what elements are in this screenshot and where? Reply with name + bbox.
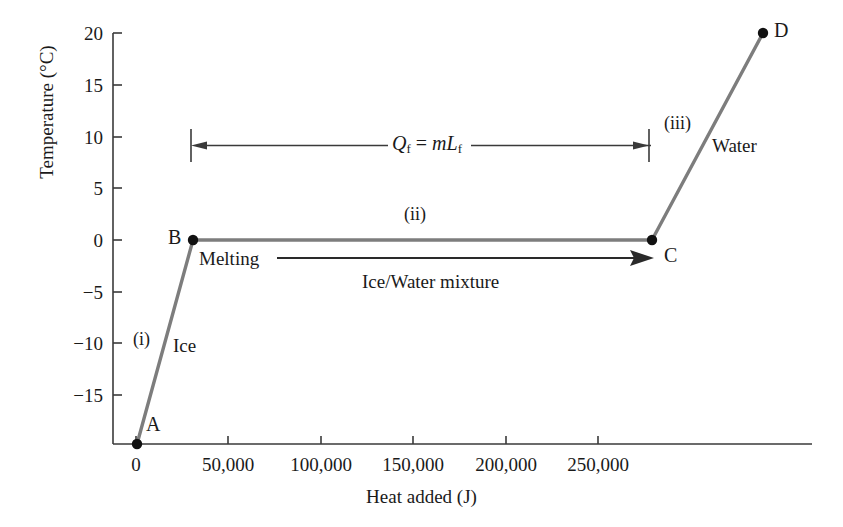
point-label-b: B xyxy=(168,227,181,247)
latent-heat-equals: = xyxy=(411,132,432,154)
y-tick-label-minus15: −15 xyxy=(44,386,103,405)
heating-curve xyxy=(137,33,763,444)
process-label-melting: Melting xyxy=(199,249,259,268)
segment-label-iii: (iii) xyxy=(664,114,691,132)
x-tick-label-200000: 200,000 xyxy=(456,455,556,474)
y-axis-title: Temperature (°C) xyxy=(36,45,57,178)
x-axis-title: Heat added (J) xyxy=(0,487,843,506)
y-tick-label-minus10: −10 xyxy=(44,334,103,353)
point-label-d: D xyxy=(774,20,788,40)
phase-label-mixture: Ice/Water mixture xyxy=(362,272,499,291)
phase-label-water: Water xyxy=(712,136,757,155)
phase-label-ice: Ice xyxy=(173,336,196,355)
x-tick-label-0: 0 xyxy=(86,455,186,474)
y-axis xyxy=(113,33,122,444)
marker-point-b xyxy=(188,235,198,245)
x-tick-label-50000: 50,000 xyxy=(178,455,278,474)
segment-label-i: (i) xyxy=(133,330,150,348)
latent-heat-ml-symbol: mL xyxy=(432,132,458,154)
latent-heat-equation: Qf = mLf xyxy=(392,133,462,155)
x-axis xyxy=(113,436,812,444)
y-axis-title-wrapper: Temperature (°C) xyxy=(36,0,60,232)
marker-point-d xyxy=(758,28,768,38)
x-tick-label-100000: 100,000 xyxy=(271,455,371,474)
y-tick-label-minus5: −5 xyxy=(44,283,103,302)
marker-point-a xyxy=(132,439,142,449)
point-label-a: A xyxy=(146,414,160,434)
plot-canvas xyxy=(0,0,843,527)
heating-curve-figure: 20 15 10 5 0 −5 −10 −15 0 50,000 100,000… xyxy=(0,0,843,527)
marker-point-c xyxy=(647,235,657,245)
melting-process-arrow xyxy=(277,250,654,266)
point-label-c: C xyxy=(664,245,677,265)
x-tick-label-250000: 250,000 xyxy=(548,455,648,474)
latent-heat-ml-subscript: f xyxy=(458,141,462,156)
y-tick-label-0: 0 xyxy=(48,231,103,250)
latent-heat-q-symbol: Q xyxy=(392,132,406,154)
x-tick-label-150000: 150,000 xyxy=(363,455,463,474)
segment-label-ii: (ii) xyxy=(404,205,426,223)
